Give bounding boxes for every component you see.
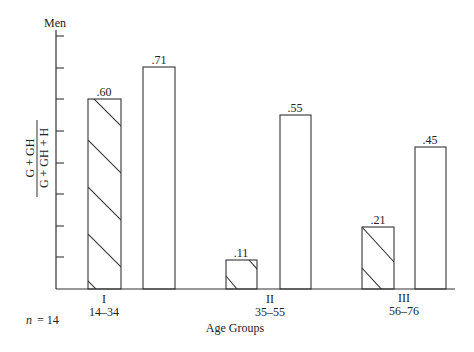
n-symbol: n [26,313,32,327]
value-label: .21 [371,213,386,227]
n-value: = 14 [37,313,59,327]
category-range: 35–55 [255,305,285,319]
value-label: .45 [423,133,438,147]
category-numeral: II [266,292,274,306]
x-axis-label: Age Groups [206,321,265,335]
bar-group-1 [78,67,175,317]
ylabel-denominator: G + GH + H [37,128,51,189]
value-label: .11 [234,246,249,260]
category-numeral: III [398,291,410,305]
ylabel-numerator: G + GH [23,138,37,177]
category-numeral: I [102,292,106,306]
chart-title: Men [44,16,66,30]
y-ticks [56,36,64,257]
bar-hatched-group-1 [88,99,121,289]
value-label: .60 [97,85,112,99]
bar-open-group-1 [143,67,175,289]
bar-chart: .60 .71 .11 .55 .21 .45 Men G + GH G + G… [0,0,474,352]
bar-group-2 [226,115,311,289]
value-label: .71 [152,53,167,67]
bar-open-group-2 [280,115,311,289]
value-label: .55 [288,101,303,115]
category-range: 14–34 [89,305,119,319]
bar-hatched-group-3 [362,227,394,289]
bar-open-group-3 [415,147,446,289]
category-range: 56–76 [389,304,419,318]
